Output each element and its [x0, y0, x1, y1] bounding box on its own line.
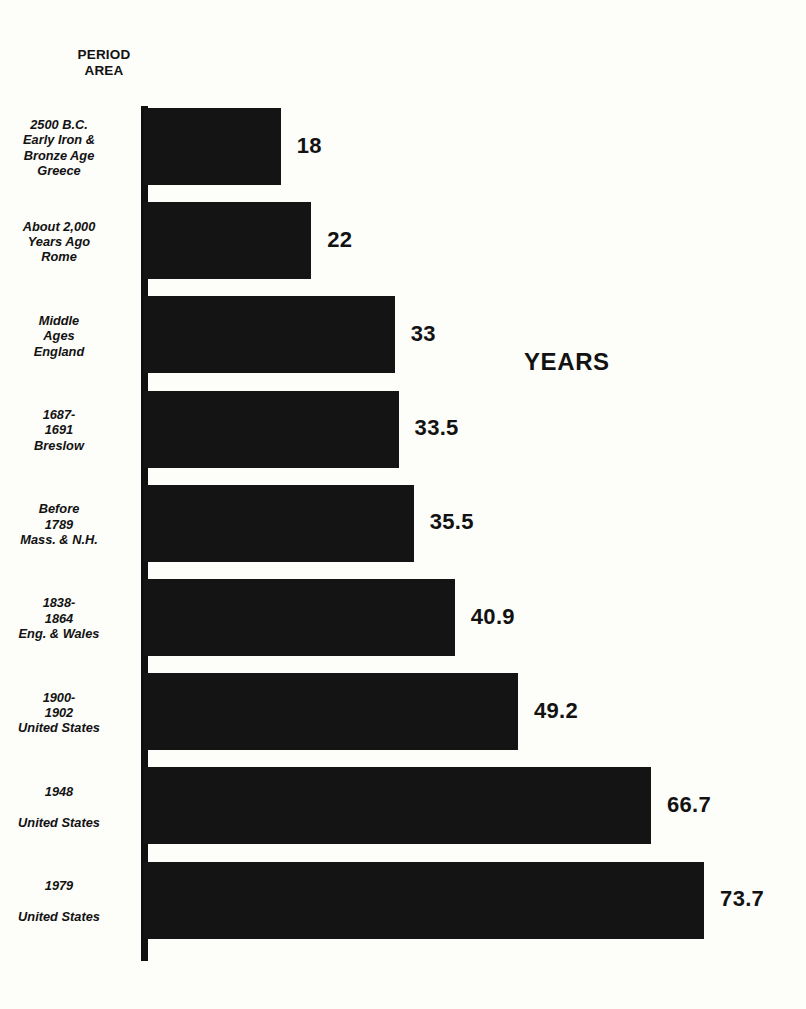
bar	[144, 202, 311, 279]
bar-value-label: 49.2	[534, 698, 578, 724]
bar	[144, 579, 455, 656]
bar-value-label: 33	[411, 321, 436, 347]
bar-category-label: 1948 United States	[0, 772, 134, 842]
bar-category-label: 1979 United States	[0, 866, 134, 936]
bar-category-label: Before 1789 Mass. & N.H.	[0, 489, 134, 559]
bar	[144, 391, 399, 468]
bar-value-label: 73.7	[720, 886, 764, 912]
bar-value-label: 18	[297, 133, 322, 159]
bar-chart: PERIOD AREA YEARS 2500 B.C. Early Iron &…	[0, 0, 806, 1009]
bar	[144, 296, 395, 373]
bar-value-label: 66.7	[667, 792, 711, 818]
bar-category-label: 2500 B.C. Early Iron & Bronze Age Greece	[0, 113, 134, 183]
bar	[144, 767, 651, 844]
plot-area: 2500 B.C. Early Iron & Bronze Age Greece…	[0, 0, 806, 1009]
bar-category-label: Middle Ages England	[0, 301, 134, 371]
bar	[144, 485, 414, 562]
bar	[144, 673, 518, 750]
bar	[144, 862, 704, 939]
bar-value-label: 40.9	[471, 604, 515, 630]
bar-value-label: 33.5	[415, 415, 459, 441]
bar	[144, 108, 281, 185]
bar-category-label: About 2,000 Years Ago Rome	[0, 207, 134, 277]
bar-value-label: 35.5	[430, 509, 474, 535]
bar-category-label: 1838- 1864 Eng. & Wales	[0, 584, 134, 654]
bar-value-label: 22	[327, 227, 352, 253]
bar-category-label: 1687- 1691 Breslow	[0, 395, 134, 465]
bar-category-label: 1900- 1902 United States	[0, 678, 134, 748]
